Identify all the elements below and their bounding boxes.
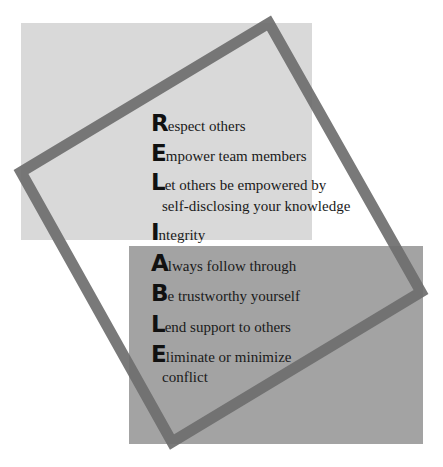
acrostic-continuation: conflict [162,370,208,385]
acrostic-initial: E [151,140,166,166]
acrostic-text: ntegrity [159,227,206,243]
acrostic-initial: A [151,250,168,276]
acrostic-item-lend-support: Lend support to others [151,313,291,336]
acrostic-initial: E [151,341,166,367]
acrostic-text: liminate or minimize [166,349,292,365]
acrostic-item-empower: Empower team members [151,142,307,165]
acrostic-text: mpower team members [166,148,307,164]
acrostic-text: et others be empowered by [165,177,327,193]
reliable-acrostic: Respect others Empower team members Let … [0,0,443,467]
acrostic-initial: L [151,311,165,337]
acrostic-continuation: self-disclosing your knowledge [162,199,350,214]
acrostic-initial: L [151,169,165,195]
acrostic-item-let-others: Let others be empowered by [151,171,326,194]
acrostic-text: espect others [168,118,246,134]
acrostic-item-eliminate: Eliminate or minimize [151,343,292,366]
acrostic-text: end support to others [165,319,291,335]
acrostic-item-be-trustworthy: Be trustworthy yourself [151,282,300,305]
acrostic-initial: I [151,219,159,245]
acrostic-item-integrity: Integrity [151,221,205,244]
acrostic-text: lways follow through [168,258,296,274]
acrostic-item-respect: Respect others [151,112,246,135]
acrostic-initial: B [151,280,168,306]
acrostic-initial: R [151,110,168,136]
acrostic-item-always: Always follow through [151,252,296,275]
acrostic-text: e trustworthy yourself [168,288,300,304]
